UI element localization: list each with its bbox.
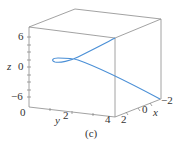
y-tick-4: 4: [105, 114, 111, 125]
bounding-box: [29, 9, 161, 117]
y-axis-label: y: [55, 115, 60, 126]
x-axis-ticks: [126, 103, 152, 115]
x-axis-label: x: [153, 107, 158, 118]
z-tick-minus6: −6: [11, 91, 23, 102]
x-tick-0: 0: [142, 104, 148, 115]
x-tick-minus2: −2: [161, 95, 173, 106]
figure-caption: (c): [85, 128, 97, 139]
3d-plot: [0, 0, 177, 145]
space-curve: [53, 38, 160, 99]
y-tick-0: 0: [20, 107, 26, 118]
y-tick-2: 2: [63, 110, 69, 121]
z-tick-6: 6: [18, 31, 24, 42]
x-tick-2: 2: [121, 114, 127, 125]
z-axis-label: z: [7, 61, 11, 72]
z-tick-0: 0: [18, 61, 24, 72]
